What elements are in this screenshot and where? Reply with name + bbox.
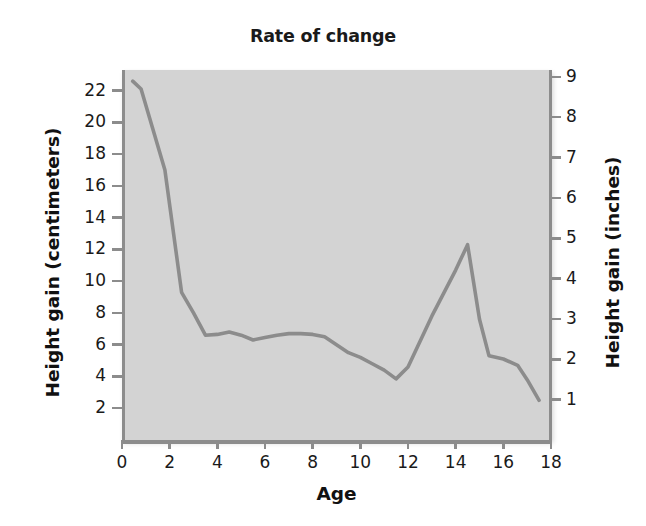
y-tick-left: [112, 153, 122, 156]
x-tick-label: 12: [388, 452, 428, 472]
x-tick-label: 2: [150, 452, 190, 472]
y-tick-left: [112, 248, 122, 251]
x-tick-label: 14: [436, 452, 476, 472]
y-tick-label-right: 3: [566, 308, 606, 328]
x-tick: [121, 440, 124, 449]
y-tick-label-right: 6: [566, 187, 606, 207]
x-tick: [168, 440, 171, 449]
axis-spine-right: [549, 70, 552, 443]
y-tick-label-right: 1: [566, 389, 606, 409]
x-axis-title: Age: [122, 483, 551, 504]
y-tick-left: [112, 343, 122, 346]
y-tick-right: [551, 358, 561, 361]
y-tick-label-right: 9: [566, 66, 606, 86]
y-tick-label-right: 8: [566, 106, 606, 126]
y-axis-left-title: Height gain (centimeters): [42, 93, 63, 433]
x-tick: [550, 440, 553, 449]
y-axis-right-title: Height gain (inches): [602, 93, 623, 433]
x-tick-label: 18: [531, 452, 571, 472]
y-tick-left: [112, 375, 122, 378]
axis-spine-bottom: [122, 440, 552, 444]
y-tick-right: [551, 116, 561, 119]
chart-figure: Rate of change 246810121416182022 123456…: [0, 0, 646, 526]
y-tick-right: [551, 277, 561, 280]
x-tick-label: 16: [483, 452, 523, 472]
y-tick-left: [112, 312, 122, 315]
x-tick: [502, 440, 505, 449]
y-tick-label-right: 2: [566, 348, 606, 368]
data-line-height-gain: [133, 81, 539, 400]
chart-title: Rate of change: [0, 26, 646, 46]
y-tick-left: [112, 89, 122, 92]
x-tick-label: 4: [197, 452, 237, 472]
x-tick-label: 6: [245, 452, 285, 472]
y-tick-label-right: 7: [566, 147, 606, 167]
y-tick-right: [551, 76, 561, 79]
y-tick-left: [112, 121, 122, 124]
y-tick-right: [551, 237, 561, 240]
y-tick-label-right: 4: [566, 268, 606, 288]
y-tick-right: [551, 197, 561, 200]
y-tick-left: [112, 280, 122, 283]
x-tick: [216, 440, 219, 449]
x-tick: [359, 440, 362, 449]
y-tick-right: [551, 398, 561, 401]
plot-area: [122, 70, 551, 440]
y-tick-right: [551, 156, 561, 159]
y-tick-left: [112, 185, 122, 188]
x-tick-label: 10: [340, 452, 380, 472]
y-tick-left: [112, 216, 122, 219]
axis-spine-left: [122, 70, 125, 443]
plot-svg: [122, 70, 551, 440]
x-tick-label: 8: [293, 452, 333, 472]
x-tick: [407, 440, 410, 449]
x-tick-label: 0: [102, 452, 142, 472]
y-tick-left: [112, 407, 122, 410]
y-tick-right: [551, 318, 561, 321]
y-tick-label-right: 5: [566, 227, 606, 247]
x-tick: [264, 440, 267, 449]
x-tick: [311, 440, 314, 449]
x-tick: [454, 440, 457, 449]
